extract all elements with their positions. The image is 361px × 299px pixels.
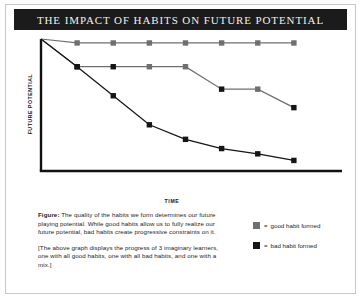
caption-paragraph-1: Figure: The quality of the habits we for… [38, 211, 224, 237]
series-marker [291, 105, 296, 110]
legend-label: bad habit formed [271, 242, 317, 249]
title-banner: THE IMPACT OF HABITS ON FUTURE POTENTIAL [14, 9, 347, 30]
series-marker [74, 40, 79, 45]
y-axis-label: FUTURE POTENTIAL [27, 69, 33, 139]
series-marker [111, 40, 116, 45]
series-marker [111, 93, 116, 98]
series-marker [183, 137, 188, 142]
figure-caption: Figure: The quality of the habits we for… [38, 211, 224, 270]
x-axis-label: TIME [14, 198, 330, 204]
chart-series [41, 39, 297, 110]
series-marker [219, 86, 224, 91]
legend-equals-sign: = [264, 223, 268, 229]
chart-series [41, 39, 297, 46]
series-marker [147, 64, 152, 69]
caption-paragraph-2: [The above graph displays the progress o… [38, 244, 224, 270]
series-line [41, 39, 294, 160]
series-marker [74, 64, 79, 69]
series-marker [147, 122, 152, 127]
line-chart-svg [14, 33, 347, 205]
chart-plot-area: FUTURE POTENTIAL TIME [14, 33, 347, 205]
caption-body-1: The quality of the habits we form determ… [38, 211, 216, 235]
series-marker [183, 40, 188, 45]
series-marker [291, 158, 296, 163]
legend-swatch-icon [253, 242, 260, 249]
series-marker [291, 40, 296, 45]
chart-legend: =good habit formed=bad habit formed [253, 222, 353, 262]
chart-axes [40, 39, 342, 171]
legend-equals-sign: = [264, 243, 268, 249]
series-marker [111, 64, 116, 69]
caption-spacer [38, 237, 224, 244]
series-marker [255, 151, 260, 156]
caption-figure-word: Figure: [38, 211, 60, 218]
figure-page: THE IMPACT OF HABITS ON FUTURE POTENTIAL… [0, 0, 361, 299]
chart-series [41, 39, 297, 163]
series-marker [219, 146, 224, 151]
legend-label: good habit formed [271, 222, 321, 229]
legend-item: =bad habit formed [253, 242, 353, 249]
legend-item: =good habit formed [253, 222, 353, 229]
chart-series-layer [41, 39, 297, 163]
page-title: THE IMPACT OF HABITS ON FUTURE POTENTIAL [37, 14, 324, 26]
series-marker [219, 40, 224, 45]
legend-swatch-icon [253, 222, 260, 229]
series-marker [255, 86, 260, 91]
series-line [41, 39, 294, 108]
series-marker [255, 40, 260, 45]
series-marker [183, 64, 188, 69]
series-marker [147, 40, 152, 45]
